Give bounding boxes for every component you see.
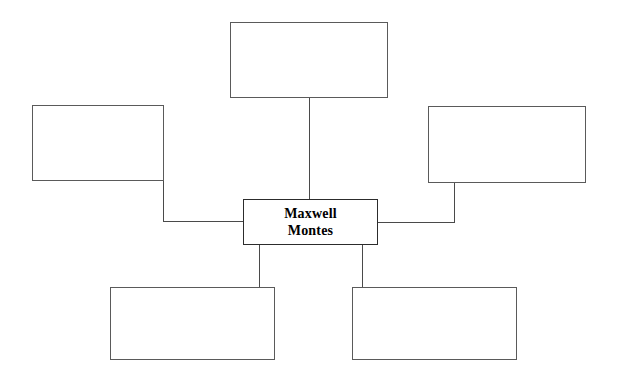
- connector-center-to-left-vertical: [163, 180, 164, 222]
- connector-center-to-left-horizontal: [163, 221, 244, 222]
- node-center[interactable]: Maxwell Montes: [243, 199, 378, 245]
- connector-center-to-right-vertical: [454, 183, 455, 223]
- node-right[interactable]: [428, 106, 586, 183]
- node-bottom-left[interactable]: [110, 287, 275, 360]
- node-bottom-right[interactable]: [352, 287, 517, 360]
- connector-center-to-bottom-left: [259, 245, 260, 288]
- connector-center-to-top: [309, 98, 310, 199]
- node-left[interactable]: [32, 105, 164, 181]
- connector-center-to-right-horizontal: [377, 222, 455, 223]
- connector-center-to-bottom-right: [362, 245, 363, 288]
- concept-map-canvas: Maxwell Montes: [0, 0, 619, 379]
- node-center-label: Maxwell Montes: [284, 205, 337, 240]
- node-top[interactable]: [230, 22, 388, 98]
